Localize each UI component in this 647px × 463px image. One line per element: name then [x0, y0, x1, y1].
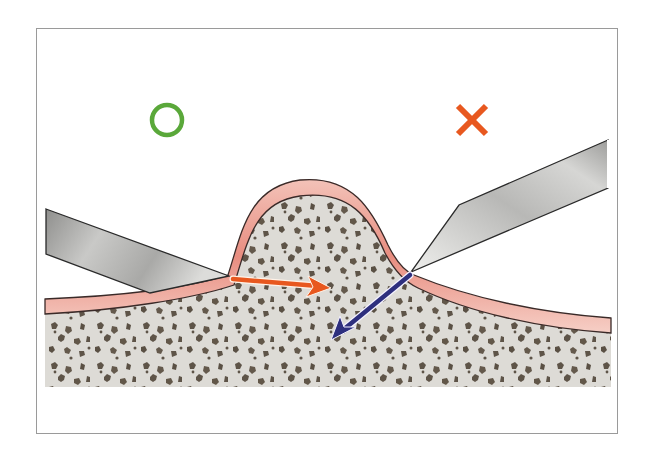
left-scalpel-blade	[46, 209, 229, 293]
incision-diagram	[0, 0, 647, 463]
correct-circle-icon	[152, 105, 182, 135]
incorrect-cross-icon	[458, 106, 486, 134]
right-scalpel-blade	[411, 140, 608, 272]
